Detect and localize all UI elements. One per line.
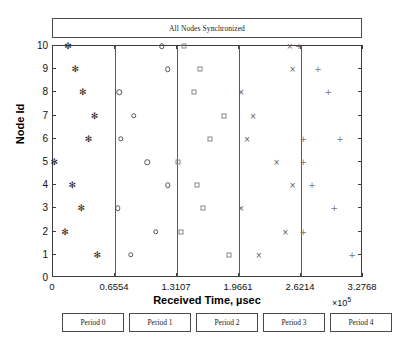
- data-point: [200, 206, 205, 211]
- y-tick-mark-right-6: [358, 138, 362, 139]
- data-point: ×: [286, 43, 293, 50]
- y-tick-mark-right-2: [358, 231, 362, 232]
- data-point: [118, 136, 124, 142]
- legend-item-period-1[interactable]: Period 1: [129, 313, 191, 332]
- y-tick-mark-right-9: [358, 68, 362, 69]
- x-axis-exponent-base: ×10: [332, 298, 347, 308]
- data-point: ✻: [64, 43, 71, 50]
- x-tick-mark-top-1: [114, 45, 115, 49]
- data-point: +: [330, 205, 337, 212]
- y-tick-mark-4: [52, 184, 56, 185]
- y-tick-label-2: 2: [42, 225, 48, 236]
- data-point: ✻: [69, 182, 76, 189]
- data-point: [128, 252, 134, 258]
- y-tick-label-4: 4: [42, 179, 48, 190]
- legend-item-period-3[interactable]: Period 3: [263, 313, 325, 332]
- y-tick-label-0: 0: [42, 272, 48, 283]
- data-point: ✻: [94, 251, 101, 258]
- data-point: [195, 183, 200, 188]
- period-divider-2: [239, 46, 240, 276]
- x-axis-exponent: ×105: [332, 296, 351, 308]
- x-tick-mark-top-0: [52, 45, 53, 49]
- chart-title-box: All Nodes Synchronized: [52, 18, 362, 38]
- data-point: ×: [249, 112, 256, 119]
- y-tick-mark-right-3: [358, 207, 362, 208]
- y-tick-mark-8: [52, 91, 56, 92]
- x-tick-mark-0: [52, 273, 53, 277]
- y-tick-mark-2: [52, 231, 56, 232]
- y-tick-label-6: 6: [42, 132, 48, 143]
- chart-root: All Nodes Synchronized Node Id 012345678…: [0, 0, 398, 345]
- period-divider-1: [177, 46, 178, 276]
- x-tick-mark-top-5: [362, 45, 363, 49]
- data-point: +: [308, 182, 315, 189]
- x-tick-label-0.6554: 0.6554: [99, 281, 128, 292]
- y-tick-mark-1: [52, 254, 56, 255]
- plot-area: ✻✻✻✻✻✻✻✻✻✻××××××××××++++++++++: [52, 45, 362, 277]
- y-tick-mark-right-5: [358, 161, 362, 162]
- y-tick-mark-right-4: [358, 184, 362, 185]
- data-point: [116, 90, 122, 96]
- y-tick-mark-right-1: [358, 254, 362, 255]
- data-point: [227, 252, 232, 257]
- y-axis-ticks: 012345678910: [14, 45, 48, 277]
- data-point: [144, 159, 150, 165]
- x-tick-label-1.9661: 1.9661: [223, 281, 252, 292]
- data-point: ×: [255, 251, 262, 258]
- data-point: +: [314, 66, 321, 73]
- plot-canvas: ✻✻✻✻✻✻✻✻✻✻××××××××××++++++++++: [53, 46, 361, 276]
- y-tick-label-7: 7: [42, 109, 48, 120]
- data-point: ✻: [79, 89, 86, 96]
- y-tick-mark-7: [52, 115, 56, 116]
- data-point: ✻: [72, 66, 79, 73]
- data-point: +: [348, 251, 355, 258]
- x-tick-mark-1: [114, 273, 115, 277]
- data-point: +: [325, 89, 332, 96]
- data-point: ✻: [61, 228, 68, 235]
- data-point: ✻: [91, 112, 98, 119]
- y-tick-label-1: 1: [42, 248, 48, 259]
- data-point: ✻: [85, 135, 92, 142]
- x-tick-mark-top-3: [238, 45, 239, 49]
- data-point: +: [336, 135, 343, 142]
- x-axis-label: Received Time, µsec: [52, 294, 362, 306]
- data-point: ×: [273, 159, 280, 166]
- y-tick-label-10: 10: [37, 40, 48, 51]
- legend-item-period-4[interactable]: Period 4: [330, 313, 392, 332]
- data-point: ×: [282, 228, 289, 235]
- data-point: ×: [289, 66, 296, 73]
- y-tick-label-3: 3: [42, 202, 48, 213]
- y-tick-mark-9: [52, 68, 56, 69]
- y-tick-label-9: 9: [42, 63, 48, 74]
- data-point: [159, 43, 165, 49]
- data-point: [131, 113, 137, 119]
- x-tick-mark-4: [300, 273, 301, 277]
- x-tick-label-2.6214: 2.6214: [285, 281, 314, 292]
- x-tick-mark-3: [238, 273, 239, 277]
- x-tick-mark-5: [362, 273, 363, 277]
- x-tick-label-1.3107: 1.3107: [161, 281, 190, 292]
- y-tick-mark-6: [52, 138, 56, 139]
- data-point: [178, 229, 183, 234]
- data-point: [165, 182, 171, 188]
- x-tick-label-0: 0: [49, 281, 54, 292]
- x-tick-label-3.2768: 3.2768: [347, 281, 376, 292]
- chart-title: All Nodes Synchronized: [169, 24, 245, 33]
- data-point: ✻: [50, 159, 57, 166]
- data-point: [181, 44, 186, 49]
- data-point: [153, 229, 159, 235]
- x-tick-mark-2: [176, 273, 177, 277]
- period-divider-0: [115, 46, 116, 276]
- y-tick-mark-right-8: [358, 91, 362, 92]
- y-tick-mark-3: [52, 207, 56, 208]
- y-tick-mark-right-7: [358, 115, 362, 116]
- x-tick-mark-top-2: [176, 45, 177, 49]
- legend-item-period-0[interactable]: Period 0: [62, 313, 124, 332]
- data-point: ×: [289, 182, 296, 189]
- legend-item-period-2[interactable]: Period 2: [196, 313, 258, 332]
- period-divider-3: [301, 46, 302, 276]
- data-point: [198, 67, 203, 72]
- y-tick-label-5: 5: [42, 156, 48, 167]
- data-point: ×: [244, 135, 251, 142]
- y-tick-label-8: 8: [42, 86, 48, 97]
